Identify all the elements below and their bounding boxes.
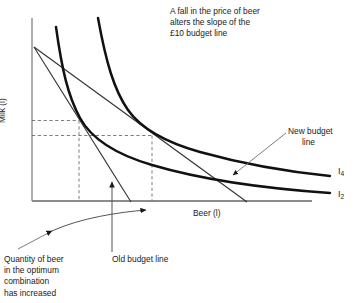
label-old-budget-line: Old budget line (112, 254, 168, 265)
indifference-curve-i4 (98, 18, 330, 176)
quantity-caption-leader (18, 231, 52, 249)
curve-label-i4-subscript: 4 (341, 170, 345, 177)
x-axis-label: Beer (l) (193, 208, 220, 219)
axes (32, 18, 312, 201)
label-new-budget-line: New budget line (288, 126, 333, 148)
annotation-price-fall: A fall in the price of beer alters the s… (170, 6, 260, 40)
curve-label-i2: I2 (338, 189, 344, 200)
y-axis-label: Milk (l) (0, 98, 8, 123)
old-budget-line (34, 47, 131, 202)
indifference-curve-i2 (56, 27, 330, 193)
curve-label-i2-subscript: 2 (341, 193, 345, 200)
increase-span-arrow (52, 210, 146, 231)
label-quantity-increase: Quantity of beer in the optimum combinat… (4, 254, 64, 299)
curve-label-i4: I4 (338, 166, 344, 177)
